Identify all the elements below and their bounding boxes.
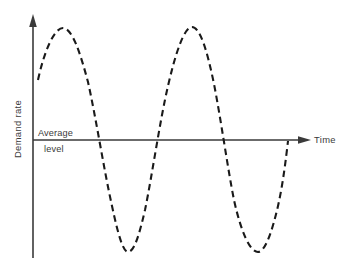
average-level-label-line2: level <box>44 144 64 154</box>
y-axis-label: Demand rate <box>12 100 23 158</box>
x-axis-label: Time <box>314 134 336 145</box>
demand-rate-chart: Demand rate Time Average level <box>0 0 348 271</box>
average-level-label-line1: Average <box>38 128 73 138</box>
y-axis-arrow-icon <box>29 14 37 27</box>
figure-container: Demand rate Time Average level <box>0 0 348 271</box>
x-axis-arrow-icon <box>298 136 311 144</box>
